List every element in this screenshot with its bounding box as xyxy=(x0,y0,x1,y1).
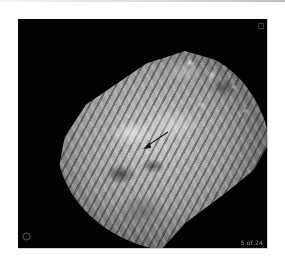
corner-indicator xyxy=(258,23,264,29)
circle-marker-icon xyxy=(22,232,31,241)
image-viewer[interactable]: 5 of 24 xyxy=(18,19,268,249)
top-divider xyxy=(0,0,285,2)
annotation-arrow-icon xyxy=(141,131,169,151)
slice-indicator: 5 of 24 xyxy=(241,239,263,246)
